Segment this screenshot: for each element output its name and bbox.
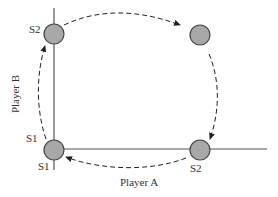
- arrow-top-left-to-top-right: [64, 13, 180, 25]
- strategy-cycle-diagram: S2 S1 S1 S2 Player A Player B: [0, 0, 278, 197]
- label-bottom-right-s2: S2: [190, 163, 202, 174]
- label-bottom-left-s1-player-b: S1: [26, 133, 38, 144]
- y-axis-label: Player B: [9, 75, 21, 113]
- label-bottom-left-s1-player-a: S1: [38, 161, 50, 172]
- x-axis-label: Player A: [120, 177, 158, 188]
- arrow-bottom-right-to-bottom-left: [66, 157, 186, 168]
- node-bottom-right: [190, 140, 210, 160]
- node-top-right: [190, 25, 210, 45]
- node-bottom-left: [44, 140, 64, 160]
- node-top-left: [44, 24, 64, 44]
- arrow-top-right-to-bottom-right: [209, 54, 217, 139]
- arrow-bottom-left-to-top-left: [38, 46, 46, 139]
- label-top-left-s2: S2: [29, 24, 41, 35]
